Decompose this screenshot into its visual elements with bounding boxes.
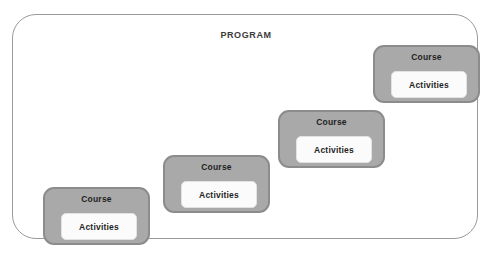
diagram-canvas: PROGRAM Course Activities Course Activit…	[0, 0, 492, 254]
course-box[interactable]: Course Activities	[278, 110, 385, 168]
course-label: Course	[280, 117, 383, 127]
course-box[interactable]: Course Activities	[43, 187, 150, 245]
program-title: PROGRAM	[13, 30, 479, 40]
activities-label: Activities	[409, 80, 449, 90]
activities-box[interactable]: Activities	[296, 136, 372, 163]
course-box[interactable]: Course Activities	[163, 155, 270, 213]
program-container: PROGRAM Course Activities Course Activit…	[12, 14, 478, 239]
activities-label: Activities	[199, 190, 239, 200]
course-label: Course	[45, 194, 148, 204]
course-box[interactable]: Course Activities	[373, 45, 480, 103]
course-label: Course	[375, 52, 478, 62]
activities-box[interactable]: Activities	[391, 71, 467, 98]
activities-box[interactable]: Activities	[181, 181, 257, 208]
activities-box[interactable]: Activities	[61, 213, 137, 240]
activities-label: Activities	[314, 145, 354, 155]
course-label: Course	[165, 162, 268, 172]
activities-label: Activities	[79, 222, 119, 232]
